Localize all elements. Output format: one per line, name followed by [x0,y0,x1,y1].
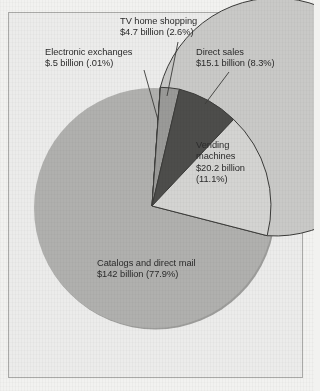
pie-label-catalogs-and-direct-mail-line1: Catalogs and direct mail [97,258,196,269]
pie-label-vending-machines-line2: machines [196,151,245,162]
pie-label-tv-home-shopping-line1: TV home shopping [120,16,197,27]
pie-label-electronic-exchanges: Electronic exchanges $.5 billion (.01%) [45,47,132,70]
pie-label-direct-sales-line1: Direct sales [196,47,275,58]
pie-label-catalogs-and-direct-mail: Catalogs and direct mail $142 billion (7… [97,258,196,281]
pie-label-vending-machines-line4: (11.1%) [196,174,245,185]
pie-label-tv-home-shopping-line2: $4.7 billion (2.6%) [120,27,197,38]
pie-label-electronic-exchanges-line2: $.5 billion (.01%) [45,58,132,69]
pie-label-direct-sales: Direct sales $15.1 billion (8.3%) [196,47,275,70]
pie-label-electronic-exchanges-line1: Electronic exchanges [45,47,132,58]
pie-label-catalogs-and-direct-mail-line2: $142 billion (77.9%) [97,269,196,280]
pie-label-direct-sales-line2: $15.1 billion (8.3%) [196,58,275,69]
pie-label-vending-machines: Vending machines $20.2 billion (11.1%) [196,140,245,186]
pie-label-vending-machines-line1: Vending [196,140,245,151]
pie-label-tv-home-shopping: TV home shopping $4.7 billion (2.6%) [120,16,197,39]
pie-label-vending-machines-line3: $20.2 billion [196,163,245,174]
